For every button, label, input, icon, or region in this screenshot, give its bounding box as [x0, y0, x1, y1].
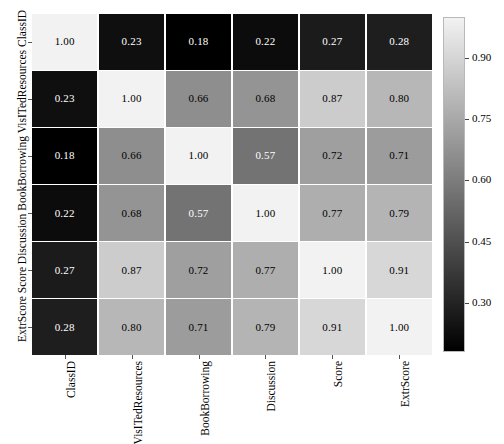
- heatmap-cell-value: 0.91: [322, 322, 342, 333]
- colorbar-tick: 0.90: [443, 58, 503, 59]
- colorbar-tick: 0.60: [443, 180, 503, 181]
- x-axis-tick-label: Score: [332, 361, 344, 387]
- heatmap-cell: 0.18: [166, 14, 231, 70]
- heatmap-cell-value: 0.28: [55, 322, 75, 333]
- heatmap-cell-value: 0.18: [55, 150, 75, 161]
- colorbar-tick-label: 0.90: [472, 51, 491, 63]
- heatmap-cell: 0.71: [367, 128, 432, 184]
- heatmap-cell-value: 0.18: [189, 36, 209, 47]
- heatmap-cell: 0.72: [166, 242, 231, 298]
- x-axis-tick: Score: [332, 355, 333, 442]
- heatmap-cell-value: 0.22: [255, 36, 275, 47]
- colorbar-tick: 0.45: [443, 242, 503, 243]
- heatmap-cell-value: 0.22: [55, 208, 75, 219]
- heatmap-cell-value: 1.00: [255, 208, 275, 219]
- heatmap-cell-value: 0.68: [122, 208, 142, 219]
- heatmap-cell: 0.57: [233, 128, 298, 184]
- heatmap-cell-value: 0.80: [389, 93, 409, 104]
- heatmap-grid: 1.000.230.180.220.270.280.231.000.660.68…: [32, 14, 432, 355]
- heatmap-cell-value: 0.87: [122, 265, 142, 276]
- heatmap-cell: 0.66: [166, 71, 231, 127]
- x-axis-tick: BookBorrowing: [199, 355, 200, 442]
- colorbar-tick-mark: [465, 58, 469, 59]
- heatmap-cell-value: 0.28: [389, 36, 409, 47]
- y-axis-tick: [0, 213, 32, 214]
- x-axis-tick: ExtrScore: [399, 355, 400, 442]
- heatmap-cell-value: 0.68: [255, 93, 275, 104]
- colorbar-tick-mark: [465, 180, 469, 181]
- heatmap-cell-value: 0.57: [189, 208, 209, 219]
- heatmap-cell-value: 1.00: [55, 36, 75, 47]
- heatmap-cell: 0.57: [166, 185, 231, 241]
- x-axis-tick-label: ClassID: [65, 361, 77, 398]
- heatmap-cell: 0.27: [300, 14, 365, 70]
- colorbar-tick-mark: [465, 303, 469, 304]
- heatmap-cell: 0.77: [300, 185, 365, 241]
- colorbar-tick-mark: [465, 119, 469, 120]
- x-axis-tick-label: BookBorrowing: [199, 361, 211, 436]
- heatmap-cell-value: 0.72: [322, 150, 342, 161]
- heatmap-cell: 1.00: [233, 185, 298, 241]
- heatmap-cell: 0.23: [32, 71, 97, 127]
- heatmap-cell: 0.80: [367, 71, 432, 127]
- heatmap-cell-value: 0.71: [189, 322, 209, 333]
- heatmap-cell: 0.71: [166, 299, 231, 355]
- heatmap-cell-value: 0.27: [55, 265, 75, 276]
- x-axis-tick-label: VisITedResources: [132, 361, 144, 444]
- heatmap-cell: 0.91: [300, 299, 365, 355]
- x-axis-tick-mark: [399, 355, 400, 359]
- heatmap-cell: 0.18: [32, 128, 97, 184]
- heatmap-cell-value: 0.72: [189, 265, 209, 276]
- heatmap-cell-value: 0.23: [122, 36, 142, 47]
- colorbar-ticks: 0.900.750.600.450.30: [443, 17, 503, 352]
- x-axis-tick-label: Discussion: [265, 361, 277, 411]
- heatmap-cell: 0.87: [300, 71, 365, 127]
- y-axis-tick: [0, 99, 32, 100]
- heatmap-cell-value: 0.71: [389, 150, 409, 161]
- x-axis-tick: Discussion: [265, 355, 266, 442]
- heatmap-cell-value: 1.00: [322, 265, 342, 276]
- heatmap-cell-value: 0.80: [122, 322, 142, 333]
- y-axis-tick: [0, 42, 32, 43]
- heatmap-cell-value: 1.00: [122, 93, 142, 104]
- x-axis: ClassIDVisITedResourcesBookBorrowingDisc…: [32, 355, 432, 442]
- heatmap-cell: 0.68: [233, 71, 298, 127]
- x-axis-tick: VisITedResources: [132, 355, 133, 442]
- heatmap-cell: 0.77: [233, 242, 298, 298]
- x-axis-tick-mark: [199, 355, 200, 359]
- colorbar-tick-label: 0.75: [472, 112, 491, 124]
- colorbar-tick-label: 0.60: [472, 173, 491, 185]
- heatmap-cell: 0.79: [233, 299, 298, 355]
- heatmap-cell: 0.80: [99, 299, 164, 355]
- x-axis-tick-mark: [265, 355, 266, 359]
- x-axis-tick-label: ExtrScore: [399, 361, 411, 407]
- colorbar-tick-label: 0.30: [472, 296, 491, 308]
- heatmap-cell: 0.28: [367, 14, 432, 70]
- y-axis-tick: [0, 327, 32, 328]
- heatmap-cell-value: 0.77: [255, 265, 275, 276]
- heatmap-cell-value: 1.00: [189, 150, 209, 161]
- heatmap-cell-value: 0.66: [189, 93, 209, 104]
- heatmap-cell-value: 0.57: [255, 150, 275, 161]
- colorbar-tick: 0.30: [443, 303, 503, 304]
- heatmap-cell-value: 0.66: [122, 150, 142, 161]
- heatmap-cell: 0.79: [367, 185, 432, 241]
- heatmap-cell-value: 1.00: [389, 322, 409, 333]
- heatmap-cell-value: 0.91: [389, 265, 409, 276]
- x-axis-tick-mark: [332, 355, 333, 359]
- heatmap-cell: 0.28: [32, 299, 97, 355]
- x-axis-tick-mark: [65, 355, 66, 359]
- heatmap-cell-value: 0.27: [322, 36, 342, 47]
- heatmap-cell: 0.66: [99, 128, 164, 184]
- heatmap-cell: 0.87: [99, 242, 164, 298]
- heatmap-cell-value: 0.77: [322, 208, 342, 219]
- heatmap-cell: 1.00: [32, 14, 97, 70]
- heatmap-cell: 0.72: [300, 128, 365, 184]
- x-axis-tick: ClassID: [65, 355, 66, 442]
- heatmap-cell-value: 0.79: [389, 208, 409, 219]
- heatmap-cell: 1.00: [367, 299, 432, 355]
- y-axis-tick: [0, 156, 32, 157]
- heatmap-cell-value: 0.79: [255, 322, 275, 333]
- heatmap-cell: 1.00: [99, 71, 164, 127]
- heatmap-cell: 1.00: [300, 242, 365, 298]
